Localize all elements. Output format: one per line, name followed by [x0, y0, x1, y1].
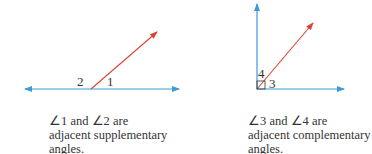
caption-line: adjacent supplementary — [49, 128, 167, 142]
red-ray — [91, 32, 157, 89]
supplementary-figure: 2 1 — [25, 32, 179, 89]
angle-label-1: 1 — [107, 74, 114, 89]
caption-line: ∠1 and ∠2 are — [49, 114, 167, 128]
red-ray — [257, 23, 313, 89]
angle-label-4: 4 — [258, 66, 265, 81]
complementary-caption: ∠3 and ∠4 are adjacent complementary ang… — [248, 114, 371, 154]
caption-line: angles. — [248, 142, 371, 154]
complementary-figure: 4 3 — [257, 4, 344, 91]
caption-line: angles. — [49, 142, 167, 154]
caption-line: ∠3 and ∠4 are — [248, 114, 371, 128]
angle-label-3: 3 — [269, 76, 276, 91]
angle-label-2: 2 — [77, 74, 84, 89]
caption-line: adjacent complementary — [248, 128, 371, 142]
supplementary-caption: ∠1 and ∠2 are adjacent supplementary ang… — [49, 114, 167, 154]
